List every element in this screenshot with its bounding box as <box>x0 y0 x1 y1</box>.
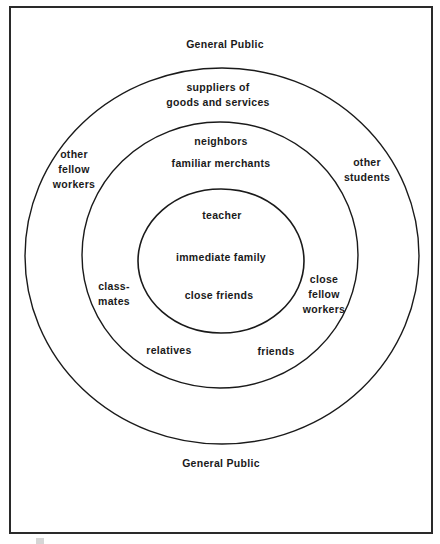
label-line: goods and services <box>166 95 269 110</box>
label-immediate-family: immediate family <box>176 250 266 265</box>
label-general-public-top: General Public <box>186 37 264 52</box>
label-familiar-merchants: familiar merchants <box>172 156 271 171</box>
label-close-fellow-workers: close fellow workers <box>303 272 345 317</box>
label-line: workers <box>53 177 95 192</box>
label-line: suppliers of <box>166 80 269 95</box>
label-line: close friends <box>185 288 254 303</box>
label-line: other <box>344 155 390 170</box>
label-line: friends <box>257 344 294 359</box>
label-line: class- <box>98 279 130 294</box>
label-classmates: class- mates <box>98 279 130 309</box>
label-friends: friends <box>257 344 294 359</box>
label-line: General Public <box>186 37 264 52</box>
label-line: fellow <box>53 162 95 177</box>
label-other-students: other students <box>344 155 390 185</box>
label-line: workers <box>303 302 345 317</box>
label-suppliers: suppliers of goods and services <box>166 80 269 110</box>
label-line: mates <box>98 294 130 309</box>
label-general-public-bottom: General Public <box>182 456 260 471</box>
clipped-caption-remnant <box>36 538 44 544</box>
label-line: students <box>344 170 390 185</box>
label-line: General Public <box>182 456 260 471</box>
label-line: familiar merchants <box>172 156 271 171</box>
label-relatives: relatives <box>146 343 191 358</box>
label-close-friends: close friends <box>185 288 254 303</box>
label-line: immediate family <box>176 250 266 265</box>
label-line: fellow <box>303 287 345 302</box>
label-teacher: teacher <box>202 208 241 223</box>
label-line: neighbors <box>194 134 247 149</box>
label-other-fellow-workers: other fellow workers <box>53 147 95 192</box>
label-line: relatives <box>146 343 191 358</box>
label-line: close <box>303 272 345 287</box>
label-line: other <box>53 147 95 162</box>
label-neighbors: neighbors <box>194 134 247 149</box>
label-line: teacher <box>202 208 241 223</box>
